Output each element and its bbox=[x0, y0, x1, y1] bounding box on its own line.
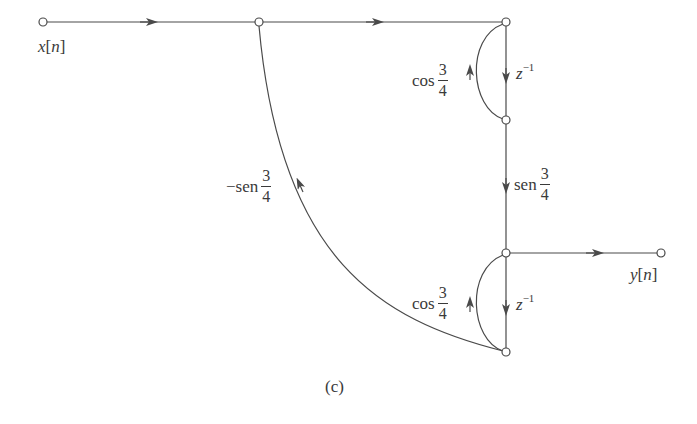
node-y bbox=[657, 249, 665, 257]
gain-fn: cos bbox=[412, 295, 435, 312]
node-split bbox=[255, 18, 263, 26]
frac-den: 4 bbox=[262, 187, 270, 205]
output-index: n bbox=[643, 265, 652, 284]
frac-num: 3 bbox=[261, 168, 271, 187]
branch-cos-bot bbox=[476, 255, 503, 351]
gain-delay-bot: z−1 bbox=[516, 296, 534, 313]
gain-neg-sen: −sen 34 bbox=[226, 168, 271, 205]
gain-sen: sen 34 bbox=[514, 166, 550, 203]
input-index: n bbox=[51, 37, 60, 56]
node-bot bbox=[502, 348, 510, 356]
frac-den: 4 bbox=[439, 81, 447, 99]
node-top bbox=[502, 18, 510, 26]
z-base: z bbox=[516, 295, 523, 314]
z-base: z bbox=[516, 64, 523, 83]
arrow-neg-sen bbox=[299, 183, 303, 192]
output-label: y[n] bbox=[630, 266, 657, 283]
gain-fn: −sen bbox=[226, 178, 258, 195]
branch-neg-sen bbox=[259, 26, 503, 351]
frac-num: 3 bbox=[438, 62, 448, 81]
input-var: x bbox=[38, 37, 46, 56]
gain-delay-top: z−1 bbox=[516, 65, 534, 82]
gain-cos-bot: cos 34 bbox=[412, 285, 448, 322]
signal-flow-graph bbox=[0, 0, 697, 424]
node-mid bbox=[502, 116, 510, 124]
node-out bbox=[502, 249, 510, 257]
frac-den: 4 bbox=[541, 185, 549, 203]
output-var: y bbox=[630, 265, 638, 284]
frac-den: 4 bbox=[439, 304, 447, 322]
frac-num: 3 bbox=[438, 285, 448, 304]
node-input bbox=[39, 18, 47, 26]
z-exp: −1 bbox=[523, 61, 535, 73]
gain-cos-top: cos 34 bbox=[412, 62, 448, 99]
figure-caption: (c) bbox=[325, 378, 344, 395]
branch-cos-top bbox=[476, 24, 503, 119]
z-exp: −1 bbox=[523, 292, 535, 304]
gain-fn: sen bbox=[514, 176, 537, 193]
gain-fn: cos bbox=[412, 72, 435, 89]
frac-num: 3 bbox=[540, 166, 550, 185]
input-label: x[n] bbox=[38, 38, 65, 55]
